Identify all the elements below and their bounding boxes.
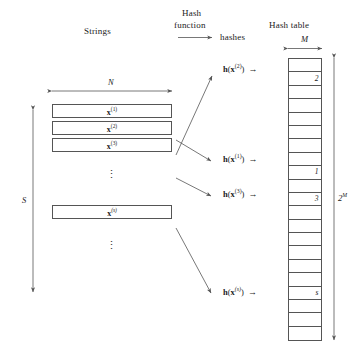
hash-label-xs: h(x(s)) → xyxy=(223,287,255,297)
string-box-xs-label: x(s) xyxy=(107,207,117,218)
hash-table-cell-value: s xyxy=(316,289,319,297)
hash-table-cell: 1 xyxy=(289,166,321,179)
hash-label-x3-arrow-icon: → xyxy=(249,189,258,199)
hash-table-cell xyxy=(289,139,321,152)
dimension-2m-exponent: M xyxy=(342,192,347,198)
hash-table-column: 213s xyxy=(288,58,322,341)
hash-table-cell: s xyxy=(289,287,321,300)
hash-function-title-line1: Hash xyxy=(182,9,201,18)
hash-table-cell xyxy=(289,153,321,166)
hash-label-x1: h(x(1)) → xyxy=(223,154,256,164)
mapping-arrow-xs xyxy=(176,228,211,293)
hashing-diagram: Strings Hash function hashes Hash table … xyxy=(0,0,361,361)
string-box-x1-label: x(1) xyxy=(107,106,117,117)
string-box-x2-label: x(2) xyxy=(107,123,117,134)
hash-label-x2-arrow-icon: → xyxy=(249,64,258,74)
hash-table-cell xyxy=(289,273,321,286)
mapping-arrow-x3 xyxy=(176,178,211,196)
strings-vertical-dots-upper: ⋮ xyxy=(104,172,118,177)
hash-table-cell-value: 1 xyxy=(315,169,319,177)
hash-table-cell xyxy=(289,126,321,139)
hash-label-xs-arrow-icon: → xyxy=(248,287,257,297)
hash-table-cell xyxy=(289,327,321,340)
strings-title: Strings xyxy=(84,27,111,36)
hash-table-title: Hash table xyxy=(269,21,309,30)
hash-table-cell xyxy=(289,59,321,72)
hash-label-x2: h(x(2)) → xyxy=(223,64,256,74)
hash-table-cell xyxy=(289,86,321,99)
hash-table-cell xyxy=(289,113,321,126)
dimension-n-label: N xyxy=(108,78,114,87)
hash-table-cell xyxy=(289,313,321,326)
mapping-arrow-x2 xyxy=(176,76,212,155)
hash-table-cell xyxy=(289,206,321,219)
dimension-s-label: S xyxy=(22,196,26,205)
string-box-x2: x(2) xyxy=(52,121,172,135)
string-box-x3: x(3) xyxy=(52,138,172,152)
hash-table-cell xyxy=(289,99,321,112)
hash-table-cell xyxy=(289,220,321,233)
hash-function-title-line2: function xyxy=(174,21,206,30)
hash-table-cell-value: 3 xyxy=(315,195,319,203)
string-box-x3-label: x(3) xyxy=(107,140,117,151)
dimension-m-label: M xyxy=(301,35,308,44)
string-box-xs: x(s) xyxy=(52,205,172,219)
hash-table-cell xyxy=(289,300,321,313)
hash-label-x3: h(x(3)) → xyxy=(223,189,256,199)
hash-table-cell xyxy=(289,260,321,273)
hash-table-cell: 3 xyxy=(289,193,321,206)
hash-table-cell xyxy=(289,180,321,193)
strings-vertical-dots-lower: ⋮ xyxy=(104,243,118,248)
dimension-2m-label: 2M xyxy=(338,193,347,202)
hash-table-cell xyxy=(289,233,321,246)
string-box-x1: x(1) xyxy=(52,104,172,118)
hash-table-cell-value: 2 xyxy=(315,75,319,83)
hash-label-x1-arrow-icon: → xyxy=(249,154,258,164)
hash-table-cell xyxy=(289,246,321,259)
hashes-label: hashes xyxy=(220,33,245,42)
hash-table-cell: 2 xyxy=(289,72,321,85)
